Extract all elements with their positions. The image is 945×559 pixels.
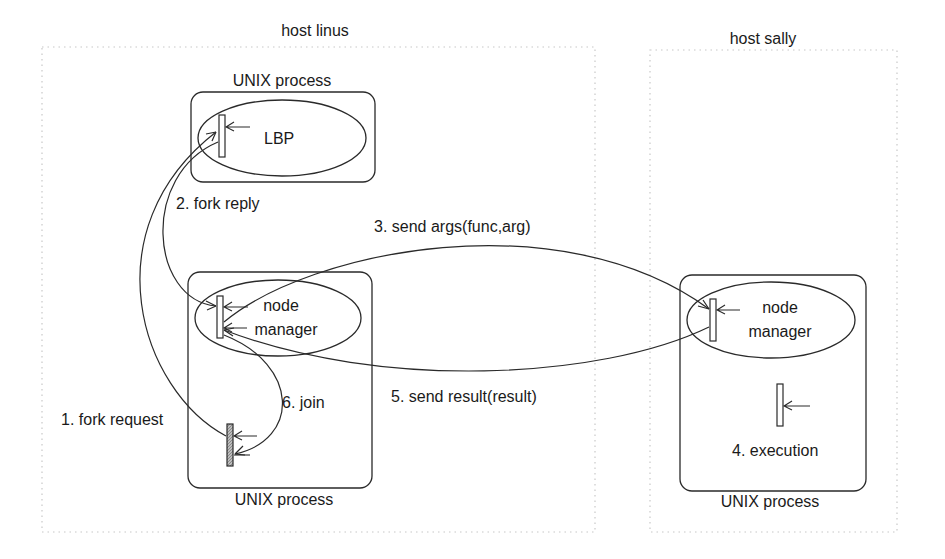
step-label-fork-reply: 2. fork reply <box>176 196 260 212</box>
step-label-send-result: 5. send result(result) <box>391 389 537 405</box>
step-label-fork-request: 1. fork request <box>61 412 163 428</box>
thread-bar-forked <box>227 424 233 466</box>
thread-bar-lbp <box>219 115 225 157</box>
diagram-canvas <box>0 0 945 559</box>
step-label-send-args: 3. send args(func,arg) <box>374 219 531 235</box>
host-linus-boundary <box>42 47 595 532</box>
process-label-sally: UNIX process <box>700 494 840 510</box>
component-label-sally-manager: manager <box>735 324 825 340</box>
component-label-linus-node: node <box>246 298 316 314</box>
process-label-lbp: UNIX process <box>212 73 352 89</box>
host-sally-label: host sally <box>708 31 818 47</box>
host-sally-boundary <box>650 50 897 532</box>
curve-fork-request <box>140 132 226 436</box>
component-label-linus-manager: manager <box>246 322 326 338</box>
step-label-execution: 4. execution <box>732 443 818 459</box>
step-label-join: 6. join <box>282 395 325 411</box>
host-linus-label: host linus <box>260 23 370 39</box>
message-curves <box>140 132 709 455</box>
component-label-lbp: LBP <box>264 131 294 147</box>
process-label-linus-bottom: UNIX process <box>214 492 354 508</box>
thread-bar-execution <box>777 384 783 426</box>
component-label-sally-node: node <box>740 300 820 316</box>
thread-bar-linus-node-manager <box>217 296 223 338</box>
thread-bar-sally-node-manager <box>710 299 716 341</box>
